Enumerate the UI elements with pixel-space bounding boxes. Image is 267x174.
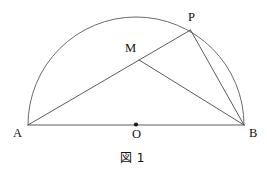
segment-chord-ap — [28, 30, 191, 125]
semicircular-arc-ab — [28, 17, 244, 125]
vertex-label-a: A — [13, 127, 22, 140]
vertex-label-p: P — [188, 11, 195, 24]
vertex-label-o: O — [132, 128, 141, 141]
point-marker-o — [134, 122, 138, 126]
geometry-drawing — [0, 0, 267, 174]
segment-chord-pb — [191, 30, 245, 125]
figure-container: A B O P M 図 1 — [0, 0, 267, 174]
vertex-label-b: B — [249, 127, 257, 140]
figure-caption: 図 1 — [120, 152, 145, 164]
vertex-label-m: M — [125, 42, 136, 55]
